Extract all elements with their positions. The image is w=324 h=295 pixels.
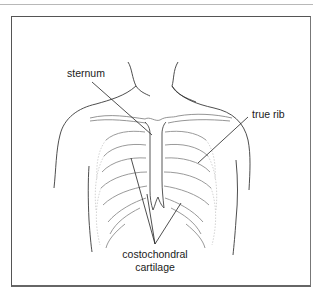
cartilage-leader-3: [155, 203, 181, 244]
label-sternum: sternum: [67, 67, 105, 79]
label-true-rib: true rib: [252, 108, 285, 120]
clavicles: [90, 114, 232, 123]
label-cartilage: cartilage: [115, 261, 195, 273]
neck-outline: [128, 62, 196, 102]
cartilage-leader-1: [131, 158, 155, 244]
ribs-right: [164, 131, 211, 248]
sternum-leader: [92, 82, 152, 135]
label-costochondral: costochondral: [115, 248, 195, 260]
sternum-bone: [145, 122, 166, 210]
torso-outline: [54, 86, 250, 255]
